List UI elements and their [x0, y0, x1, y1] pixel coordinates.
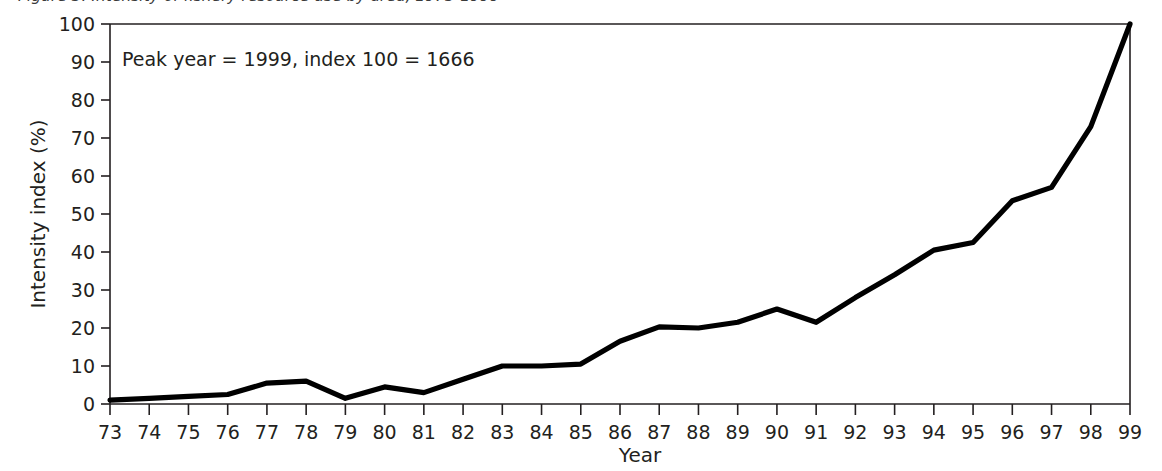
x-axis-tick-label: 84 [529, 421, 553, 443]
intensity-index-series-line [110, 24, 1130, 400]
x-axis-tick-label: 99 [1118, 421, 1142, 443]
x-axis-tick-label: 95 [961, 421, 985, 443]
y-axis-tick-label: 100 [59, 13, 95, 35]
x-axis-tick-label: 94 [922, 421, 946, 443]
x-axis-tick-label: 82 [451, 421, 475, 443]
y-axis-tick-labels: 0102030405060708090100 [59, 13, 95, 415]
intensity-index-line-chart: 0102030405060708090100 73747576777879808… [0, 0, 1162, 471]
x-axis-ticks [110, 404, 1130, 415]
x-axis-tick-labels: 7374757677787980818283848586878889909192… [98, 421, 1142, 443]
peak-year-annotation: Peak year = 1999, index 100 = 1666 [122, 48, 475, 70]
y-axis-tick-label: 70 [71, 127, 95, 149]
x-axis-tick-label: 74 [137, 421, 161, 443]
x-axis-tick-label: 77 [255, 421, 279, 443]
y-axis-tick-label: 30 [71, 279, 95, 301]
x-axis-tick-label: 90 [765, 421, 789, 443]
x-axis-tick-label: 91 [804, 421, 828, 443]
x-axis-tick-label: 75 [176, 421, 200, 443]
x-axis-tick-label: 92 [843, 421, 867, 443]
y-axis-tick-label: 80 [71, 89, 95, 111]
y-axis-title: Intensity index (%) [26, 119, 50, 308]
x-axis-tick-label: 85 [569, 421, 593, 443]
x-axis-tick-label: 80 [373, 421, 397, 443]
x-axis-tick-label: 79 [333, 421, 357, 443]
x-axis-tick-label: 76 [216, 421, 240, 443]
x-axis-title: Year [618, 443, 662, 467]
y-axis-tick-label: 60 [71, 165, 95, 187]
x-axis-tick-label: 96 [1000, 421, 1024, 443]
x-axis-tick-label: 97 [1039, 421, 1063, 443]
y-axis-tick-label: 50 [71, 203, 95, 225]
x-axis-tick-label: 81 [412, 421, 436, 443]
x-axis-tick-label: 78 [294, 421, 318, 443]
plot-frame [110, 24, 1130, 404]
x-axis-tick-label: 83 [490, 421, 514, 443]
y-axis-ticks [101, 24, 110, 404]
y-axis-tick-label: 40 [71, 241, 95, 263]
y-axis-tick-label: 90 [71, 51, 95, 73]
x-axis-tick-label: 73 [98, 421, 122, 443]
x-axis-tick-label: 98 [1079, 421, 1103, 443]
x-axis-tick-label: 88 [686, 421, 710, 443]
y-axis-tick-label: 0 [83, 393, 95, 415]
x-axis-tick-label: 87 [647, 421, 671, 443]
figure-container: Figure 3. Intensity of fishery resource … [0, 0, 1162, 471]
x-axis-tick-label: 93 [883, 421, 907, 443]
y-axis-tick-label: 10 [71, 355, 95, 377]
x-axis-tick-label: 86 [608, 421, 632, 443]
y-axis-tick-label: 20 [71, 317, 95, 339]
x-axis-tick-label: 89 [726, 421, 750, 443]
